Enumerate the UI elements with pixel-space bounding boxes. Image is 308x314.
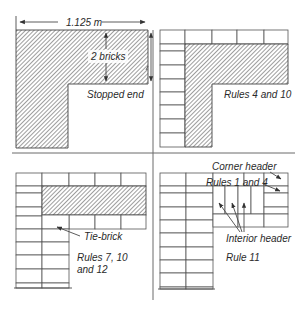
brick — [16, 186, 42, 193]
caption-stopped-end: Stopped end — [87, 89, 144, 100]
brick — [160, 105, 185, 119]
brick — [160, 207, 186, 220]
caption-rules-7-10-12-line2: and 12 — [77, 264, 108, 275]
brick — [264, 207, 288, 214]
brick — [16, 216, 42, 229]
panel-stopped-end: 1.125 m 2 bricks Stopped end — [16, 16, 151, 148]
brick — [160, 65, 185, 79]
brick — [160, 233, 186, 247]
callout-rules-1-4: Rules 1 and 4 — [206, 177, 268, 188]
brick — [160, 247, 186, 260]
brick — [121, 215, 146, 229]
panel-rule-11: Corner header Rules 1 and 4 Interior hea… — [158, 161, 292, 289]
brick — [186, 207, 213, 220]
caption-rules-4-10: Rules 4 and 10 — [224, 89, 292, 100]
caption-rules-7-10-12-line1: Rules 7, 10 — [77, 252, 128, 263]
brick — [160, 44, 185, 51]
brick — [186, 220, 213, 233]
brick — [264, 214, 288, 227]
caption-rule-11: Rule 11 — [226, 252, 260, 263]
panel-rules-4-10: Rules 4 and 10 — [160, 30, 292, 147]
dimension-depth-label: 2 bricks — [90, 51, 125, 62]
brick — [160, 92, 185, 105]
brick — [160, 193, 186, 207]
brick — [95, 215, 121, 229]
brick — [160, 119, 185, 133]
brick — [213, 214, 238, 227]
brick — [16, 242, 42, 255]
interior-header — [251, 186, 264, 214]
brick — [42, 242, 69, 255]
interior-header — [238, 186, 251, 214]
brick — [42, 229, 69, 242]
brick — [42, 255, 69, 269]
brick — [264, 30, 288, 44]
brick — [264, 193, 288, 207]
interior-header — [213, 186, 225, 214]
brickwork-corner-diagram: 1.125 m 2 bricks Stopped end Rules 4 and… — [0, 0, 308, 314]
brick — [186, 273, 213, 287]
brick — [16, 207, 42, 216]
brick — [186, 260, 213, 273]
brick — [186, 193, 213, 207]
callout-corner-header: Corner header — [212, 161, 277, 172]
brick — [237, 30, 264, 44]
brick — [160, 30, 185, 44]
brick — [160, 186, 186, 193]
brick — [95, 173, 121, 186]
brick — [160, 173, 186, 186]
brick — [160, 220, 186, 233]
callout-interior-header: Interior header — [226, 233, 292, 244]
brick — [160, 51, 185, 65]
brick — [186, 247, 213, 260]
brick — [238, 214, 264, 227]
dimension-width-label: 1.125 m — [66, 17, 102, 28]
brick — [16, 283, 42, 288]
brick — [69, 173, 95, 186]
brick — [16, 255, 42, 269]
brick — [16, 229, 42, 242]
brick — [42, 283, 69, 288]
brick — [121, 173, 146, 186]
brick — [16, 173, 42, 186]
tie-brick — [42, 215, 69, 229]
brick — [42, 173, 69, 186]
brick — [69, 215, 95, 229]
brick — [160, 133, 185, 147]
brick — [16, 269, 42, 283]
brick — [212, 30, 237, 44]
callout-tie-brick: Tie-brick — [84, 231, 123, 242]
brick — [16, 193, 42, 207]
brick — [42, 269, 69, 283]
brick — [186, 233, 213, 247]
brick — [160, 260, 186, 273]
brick — [160, 273, 186, 287]
brick — [185, 30, 212, 44]
interior-header — [225, 186, 238, 214]
brick — [160, 79, 185, 92]
hatched-course — [42, 186, 146, 215]
panel-rules-7-10-12: Tie-brick Rules 7, 10 and 12 — [14, 173, 146, 288]
